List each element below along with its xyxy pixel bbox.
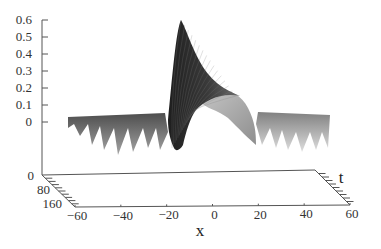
z-tick-label: 0 — [26, 114, 33, 129]
x-tick-label: 40 — [300, 206, 313, 221]
z-tick-label: 0.6 — [16, 12, 33, 27]
left-ripples — [68, 113, 168, 155]
z-tick-label: 0.3 — [16, 63, 32, 78]
t-tick-label: 0 — [28, 168, 35, 183]
t-axis-title: t — [339, 168, 344, 187]
x-tick-label: −40 — [113, 208, 133, 223]
surface-plot: 0.60.50.40.30.20.10 −60−40−2002040600801… — [0, 0, 381, 249]
z-tick-label: 0.1 — [16, 97, 32, 112]
x-tick-label: 20 — [254, 207, 267, 222]
right-ripples — [256, 112, 330, 152]
x-axis-title: x — [196, 221, 205, 240]
z-tick-label: 0.4 — [16, 46, 33, 61]
x-tick-label: 60 — [346, 206, 359, 221]
z-axis-ticks: 0.60.50.40.30.20.10 — [16, 12, 48, 129]
x-tick-label: −60 — [67, 208, 87, 223]
t-axis-right-hatch — [319, 174, 354, 202]
x-tick-label: 0 — [211, 207, 218, 222]
x-axis-ticks: −60−40−200204060080160 — [28, 168, 359, 223]
surface-mesh — [68, 20, 330, 155]
z-tick-label: 0.5 — [16, 29, 32, 44]
z-tick-label: 0.2 — [16, 80, 32, 95]
floor-back-edge — [42, 170, 315, 175]
t-tick-label: 80 — [37, 182, 50, 197]
x-tick-label: −20 — [158, 207, 178, 222]
floor-frame: −60−40−200204060080160 — [28, 168, 359, 223]
z-axis: 0.60.50.40.30.20.10 — [16, 12, 48, 175]
t-tick-label: 160 — [43, 196, 63, 211]
